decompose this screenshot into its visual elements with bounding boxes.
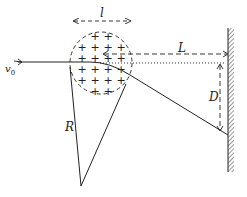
- positive-charge-icon: +: [90, 85, 99, 98]
- positive-charge-icon: +: [116, 74, 125, 87]
- width-label: l: [100, 6, 104, 20]
- radius-label: R: [64, 120, 74, 134]
- screen-wall: [228, 28, 234, 172]
- positive-charge-icon: +: [103, 85, 112, 98]
- charge-grid: ++++++++++++++++++++: [77, 30, 125, 98]
- screen-distance-label: L: [177, 41, 186, 55]
- positive-charge-icon: +: [77, 74, 86, 87]
- velocity-label: v0: [5, 63, 15, 77]
- deflection-diagram: l ++++++++++++++++++++ v0 L D R: [0, 0, 247, 197]
- deflection-label: D: [208, 90, 219, 104]
